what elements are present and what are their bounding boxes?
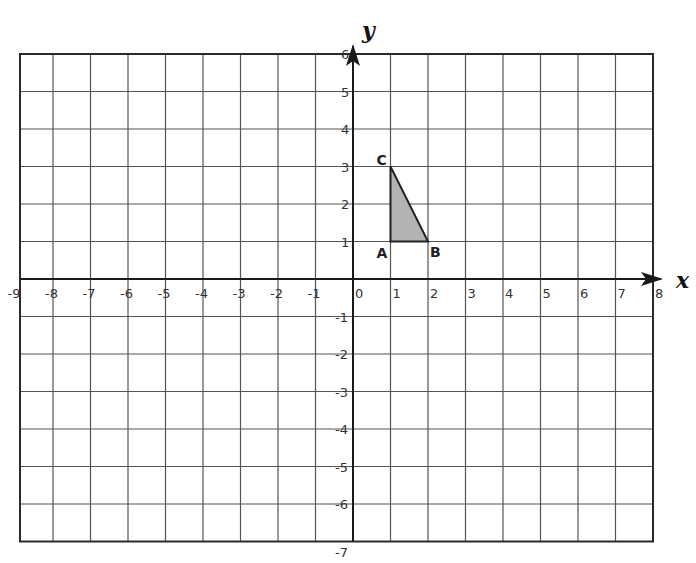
y-tick-label: 6 (341, 47, 349, 62)
y-tick-label: -7 (335, 545, 348, 560)
y-tick-label: -6 (335, 497, 348, 512)
x-tick-label: 3 (468, 286, 476, 301)
y-tick-label: 1 (341, 235, 349, 250)
x-tick-label: -5 (158, 286, 171, 301)
x-tick-label: -2 (270, 286, 283, 301)
x-tick-label: -4 (195, 286, 208, 301)
x-tick-label: 8 (655, 286, 663, 301)
x-tick-label: 7 (618, 286, 626, 301)
y-tick-label: -5 (335, 460, 348, 475)
y-tick-label: 2 (341, 197, 349, 212)
triangle-abc: ABC (377, 152, 441, 261)
axis-labels: y x (361, 17, 690, 293)
vertex-label-b: B (430, 244, 441, 260)
x-tick-label: -3 (233, 286, 246, 301)
x-tick-label: 2 (430, 286, 438, 301)
x-tick-label: -8 (45, 286, 58, 301)
x-tick-label: 6 (580, 286, 588, 301)
x-tick-label: 5 (543, 286, 551, 301)
y-tick-label: -1 (335, 310, 348, 325)
y-tick-label: 5 (341, 85, 349, 100)
x-tick-label: 0 (355, 286, 363, 301)
vertex-label-a: A (377, 245, 388, 261)
y-tick-label: 3 (341, 160, 349, 175)
x-tick-label: -9 (8, 286, 21, 301)
x-tick-label: -7 (83, 286, 96, 301)
x-tick-label: -1 (308, 286, 321, 301)
y-tick-label: -2 (335, 347, 348, 362)
x-tick-label: 4 (505, 286, 513, 301)
coordinate-plane: ABC -9-8-7-6-5-4-3-2-1012345678-7-6-5-4-… (0, 0, 696, 563)
y-tick-label: -3 (335, 385, 348, 400)
x-tick-label: 1 (393, 286, 401, 301)
tick-labels: -9-8-7-6-5-4-3-2-1012345678-7-6-5-4-3-2-… (8, 47, 664, 560)
x-tick-label: -6 (120, 286, 133, 301)
y-tick-label: -4 (335, 422, 348, 437)
y-axis-label: y (361, 17, 377, 43)
y-tick-label: 4 (341, 122, 349, 137)
x-axis-label: x (675, 267, 690, 293)
vertex-label-c: C (377, 152, 387, 168)
